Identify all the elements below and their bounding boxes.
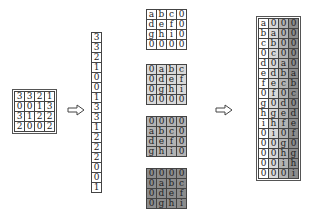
kernel-shift-matrix-4: 00000abc0def0ghi [146, 168, 187, 209]
matrix-cell: 0 [259, 129, 269, 139]
vector-cell: 1 [92, 183, 102, 193]
matrix-cell: i [167, 147, 177, 157]
matrix-row: def0 [147, 137, 187, 147]
matrix-cell: e [167, 75, 177, 85]
vector-cell: 3 [92, 103, 102, 113]
matrix-cell: 0 [279, 49, 289, 59]
matrix-cell: g [259, 99, 269, 109]
vector-cell: 0 [92, 83, 102, 93]
matrix-cell: b [167, 179, 177, 189]
matrix-row: ghi0 [147, 30, 187, 40]
matrix-cell: h [279, 149, 289, 159]
matrix-cell: 2 [35, 112, 45, 122]
matrix-cell: 2 [15, 122, 25, 132]
matrix-row: d0a0 [259, 59, 299, 69]
matrix-cell: d [157, 189, 167, 199]
matrix-cell: b [167, 65, 177, 75]
matrix-cell: f [259, 79, 269, 89]
matrix-cell: d [279, 99, 289, 109]
matrix-cell: 0 [177, 20, 187, 30]
matrix-cell: c [177, 65, 187, 75]
matrix-cell: 0 [279, 89, 289, 99]
matrix-cell: f [177, 189, 187, 199]
matrix-row: 0000 [147, 40, 187, 50]
matrix-cell: i [269, 129, 279, 139]
vector-cell: 2 [92, 153, 102, 163]
matrix-cell: 0 [157, 117, 167, 127]
matrix-cell: 0 [157, 40, 167, 50]
matrix-cell: 0 [269, 19, 279, 29]
matrix-cell: d [289, 109, 299, 119]
matrix-cell: f [279, 119, 289, 129]
matrix-cell: 0 [259, 49, 269, 59]
matrix-row: 0ghi [147, 85, 187, 95]
matrix-cell: 0 [279, 169, 289, 179]
matrix-row: g0d0 [259, 99, 299, 109]
matrix-cell: 0 [177, 10, 187, 20]
matrix-cell: 0 [25, 122, 35, 132]
matrix-row: 0c00 [259, 49, 299, 59]
matrix-cell: 0 [35, 122, 45, 132]
matrix-cell: e [289, 119, 299, 129]
matrix-cell: 0 [177, 95, 187, 105]
matrix-cell: 0 [269, 139, 279, 149]
matrix-cell: c [289, 89, 299, 99]
matrix-row: hged [259, 109, 299, 119]
matrix-cell: h [269, 119, 279, 129]
vector-cell: 1 [92, 63, 102, 73]
matrix-cell: i [289, 169, 299, 179]
matrix-cell: b [157, 10, 167, 20]
vector-cell: 3 [92, 113, 102, 123]
matrix-cell: f [167, 137, 177, 147]
matrix-cell: 0 [269, 149, 279, 159]
matrix-row: 0ghi [147, 199, 187, 209]
matrix-cell: a [157, 65, 167, 75]
matrix-cell: 0 [147, 169, 157, 179]
matrix-row: abc0 [147, 127, 187, 137]
matrix-cell: c [177, 179, 187, 189]
matrix-cell: i [177, 85, 187, 95]
matrix-row: 0def [147, 189, 187, 199]
matrix-cell: 0 [147, 179, 157, 189]
matrix-cell: 0 [147, 65, 157, 75]
matrix-cell: 2 [45, 122, 55, 132]
matrix-cell: 0 [25, 102, 35, 112]
matrix-cell: a [157, 179, 167, 189]
matrix-cell: c [279, 79, 289, 89]
vector-cell: 1 [92, 123, 102, 133]
matrix-cell: 0 [269, 169, 279, 179]
vector-cell: 2 [92, 143, 102, 153]
matrix-cell: g [157, 85, 167, 95]
matrix-cell: h [157, 30, 167, 40]
matrix-cell: 0 [289, 49, 299, 59]
matrix-cell: g [269, 109, 279, 119]
matrix-cell: 0 [177, 30, 187, 40]
matrix-row: fecb [259, 79, 299, 89]
matrix-cell: f [269, 89, 279, 99]
matrix-cell: 0 [289, 59, 299, 69]
matrix-row: 000i [259, 169, 299, 179]
matrix-cell: e [279, 109, 289, 119]
matrix-cell: 0 [259, 89, 269, 99]
matrix-cell: e [269, 79, 279, 89]
matrix-cell: b [157, 127, 167, 137]
matrix-row: 3122 [15, 112, 55, 122]
matrix-cell: i [167, 30, 177, 40]
matrix-cell: 0 [157, 169, 167, 179]
right-arrow-icon [215, 104, 233, 116]
matrix-cell: 0 [177, 169, 187, 179]
matrix-cell: 3 [45, 102, 55, 112]
matrix-cell: c [259, 39, 269, 49]
matrix-cell: d [259, 59, 269, 69]
matrix-cell: h [167, 199, 177, 209]
matrix-cell: i [279, 159, 289, 169]
matrix-cell: a [289, 69, 299, 79]
matrix-cell: 0 [167, 169, 177, 179]
matrix-cell: 0 [269, 99, 279, 109]
matrix-cell: 0 [147, 117, 157, 127]
matrix-cell: c [167, 127, 177, 137]
matrix-cell: 0 [177, 137, 187, 147]
matrix-cell: 2 [35, 92, 45, 102]
matrix-cell: i [177, 199, 187, 209]
matrix-cell: d [269, 69, 279, 79]
